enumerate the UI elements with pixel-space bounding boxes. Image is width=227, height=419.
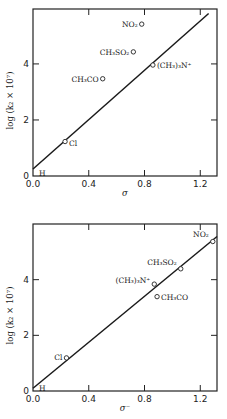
data-point — [179, 267, 183, 271]
x-axis-label: σ — [122, 188, 128, 198]
data-point — [64, 356, 68, 360]
chart-panel-2: 0.00.40.81.2024HCl(CH₃)₃N⁺CH₃COCH₃SO₂NO₂… — [5, 224, 217, 413]
point-label: Cl — [69, 139, 78, 148]
data-point — [63, 139, 67, 143]
point-label: CH₃CO — [161, 293, 188, 302]
data-point — [140, 22, 144, 26]
y-tick-label: 4 — [23, 275, 29, 285]
regression-line — [33, 13, 209, 169]
point-label: CH₃SO₂ — [100, 48, 130, 57]
y-tick-label: 0 — [23, 386, 29, 396]
point-label: NO₂ — [122, 20, 138, 29]
regression-line — [33, 237, 217, 389]
data-point — [155, 294, 159, 298]
data-point — [151, 63, 155, 67]
x-tick-label: 1.2 — [193, 394, 207, 404]
y-axis-label: log (k₂ × 10⁷) — [5, 72, 15, 130]
y-axis-label: log (k₂ × 10⁷) — [5, 287, 15, 345]
x-tick-label: 0.4 — [82, 179, 97, 189]
data-point — [152, 282, 156, 286]
data-point — [100, 77, 104, 81]
data-point — [211, 239, 215, 243]
y-tick-label: 4 — [23, 59, 29, 69]
point-label: NO₂ — [193, 230, 209, 239]
x-axis-label: σ⁻ — [120, 403, 130, 413]
point-label: (CH₃)₃N⁺ — [116, 276, 151, 285]
y-tick-label: 0 — [23, 171, 29, 181]
point-label: Cl — [54, 353, 63, 362]
point-label: (CH₃)₃N⁺ — [157, 61, 192, 70]
x-tick-label: 1.2 — [193, 179, 207, 189]
data-point — [131, 50, 135, 54]
chart-panel-1: 0.00.40.81.2024HClCH₃COCH₃SO₂NO₂(CH₃)₃N⁺… — [5, 9, 217, 198]
hammett-plots-figure: 0.00.40.81.2024HClCH₃COCH₃SO₂NO₂(CH₃)₃N⁺… — [0, 0, 227, 419]
x-tick-label: 0.8 — [137, 179, 152, 189]
chart-canvas: 0.00.40.81.2024HClCH₃COCH₃SO₂NO₂(CH₃)₃N⁺… — [0, 0, 227, 419]
plot-frame — [33, 9, 217, 176]
point-label: CH₃SO₂ — [147, 258, 177, 267]
y-tick-label: 2 — [23, 115, 29, 125]
x-tick-label: 0.4 — [82, 394, 97, 404]
point-label: H — [39, 169, 46, 178]
x-tick-label: 0.8 — [137, 394, 152, 404]
point-label: CH₃CO — [72, 75, 99, 84]
y-tick-label: 2 — [23, 330, 29, 340]
point-label: H — [39, 384, 46, 393]
